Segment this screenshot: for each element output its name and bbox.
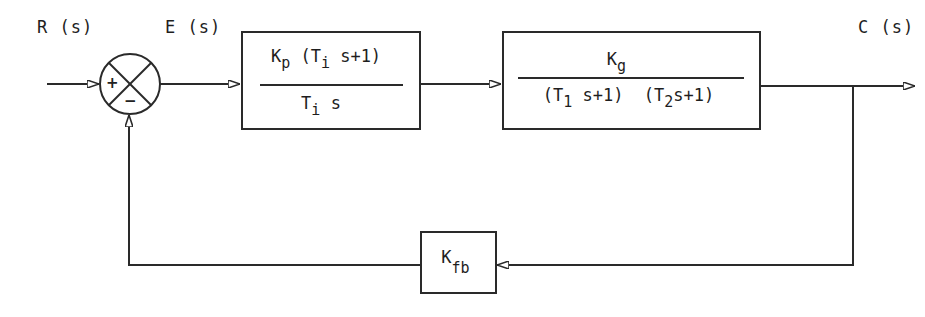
k-symbol: K <box>441 247 451 267</box>
plant-denominator: (T1 s+1) (T2s+1) <box>498 85 759 105</box>
output-signal-label: C (s) <box>858 17 914 37</box>
t1-symbol: (T <box>543 85 563 105</box>
t2-subscript: 2 <box>664 93 673 111</box>
plant-block: Kg (T1 s+1) (T2s+1) <box>502 31 761 130</box>
factor2-rest: s+1) <box>673 85 714 105</box>
plant-numerator: Kg <box>474 49 759 69</box>
feedback-block: Kfb <box>420 231 497 294</box>
k-subscript: g <box>617 57 626 75</box>
plant-fraction-bar <box>518 77 744 79</box>
numerator-rest: s+1) <box>330 46 381 66</box>
error-signal-label: E (s) <box>165 17 221 37</box>
feedback-gain: Kfb <box>416 247 495 267</box>
k-symbol: K <box>607 49 617 69</box>
t-symbol: T <box>301 93 311 113</box>
t2-symbol: (T <box>623 85 664 105</box>
controller-block: Kp (Ti s+1) Ti s <box>241 31 421 130</box>
controller-denominator: Ti s <box>223 93 419 113</box>
feedback-path-left <box>129 115 420 265</box>
input-signal-label: R (s) <box>37 17 93 37</box>
minus-sign: − <box>124 92 137 110</box>
k-subscript: p <box>281 54 290 72</box>
controller-numerator: Kp (Ti s+1) <box>233 46 419 66</box>
t-subscript: i <box>321 54 330 72</box>
controller-fraction-bar <box>260 84 403 86</box>
k-symbol: K <box>271 46 281 66</box>
t-subscript: i <box>311 101 320 119</box>
plus-sign: + <box>106 74 119 92</box>
factor1-rest: s+1) <box>572 85 623 105</box>
t-symbol: (T <box>290 46 321 66</box>
t1-subscript: 1 <box>563 93 572 111</box>
denominator-rest: s <box>320 93 340 113</box>
k-subscript: fb <box>452 259 470 277</box>
